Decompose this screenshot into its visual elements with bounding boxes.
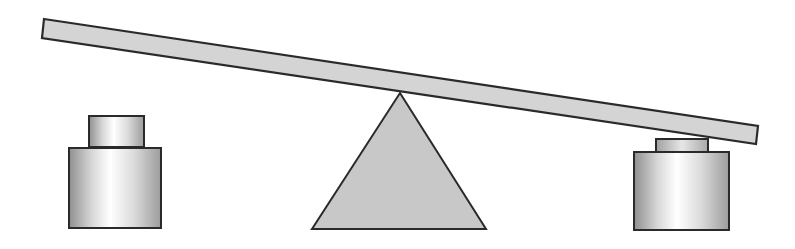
left-weight-base [69,148,161,228]
left-weight [69,116,161,228]
left-weight-cap [89,116,144,147]
fulcrum-triangle [312,93,486,229]
right-weight-cap [656,139,708,152]
right-weight [634,139,729,230]
seesaw-diagram: Seesaw balance with weights [0,0,795,249]
diagram-svg [0,0,795,249]
right-weight-base [634,152,729,230]
